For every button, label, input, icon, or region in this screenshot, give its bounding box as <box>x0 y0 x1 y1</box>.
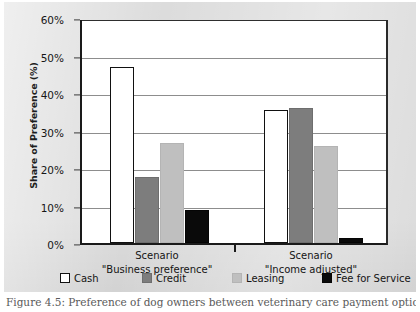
legend-label: Credit <box>156 273 186 284</box>
legend-item-fee[interactable]: Fee for Service <box>322 273 411 284</box>
y-axis-tick-label: 50% <box>20 52 64 64</box>
bar-credit-group-1 <box>135 177 159 243</box>
plot-area <box>80 20 388 245</box>
legend-label: Fee for Service <box>336 273 411 284</box>
figure-page: Share of Preference (%) 0%10%20%30%40%50… <box>0 0 420 312</box>
y-axis-title: Share of Preference (%) <box>28 51 39 201</box>
y-axis-tick-label: 10% <box>20 202 64 214</box>
y-axis-tick-label: 40% <box>20 89 64 101</box>
bar-cash-group-2 <box>264 110 288 243</box>
legend-swatch-credit-icon <box>142 273 152 283</box>
y-axis-tick-label: 20% <box>20 164 64 176</box>
legend-swatch-leasing-icon <box>232 273 242 283</box>
legend-label: Cash <box>74 273 99 284</box>
bar-credit-group-2 <box>289 108 313 243</box>
gridline <box>82 58 386 59</box>
y-axis-tick-label: 60% <box>20 14 64 26</box>
legend-item-cash[interactable]: Cash <box>60 273 99 284</box>
figure-caption: Figure 4.5: Preference of dog owners bet… <box>6 296 416 308</box>
bar-cash-group-1 <box>110 67 134 243</box>
legend-item-credit[interactable]: Credit <box>142 273 186 284</box>
x-axis-group-separator-tick <box>234 245 236 252</box>
legend-item-leasing[interactable]: Leasing <box>232 273 284 284</box>
group-label-line1: Scenario <box>135 250 178 261</box>
bar-fee-group-1 <box>185 210 209 243</box>
legend-swatch-fee-icon <box>322 273 332 283</box>
group-label-line1: Scenario <box>289 250 332 261</box>
legend-label: Leasing <box>246 273 284 284</box>
chart-figure-panel: Share of Preference (%) 0%10%20%30%40%50… <box>4 2 416 292</box>
bar-leasing-group-1 <box>160 143 184 243</box>
y-axis-tick-label: 30% <box>20 127 64 139</box>
bar-fee-group-2 <box>339 238 363 243</box>
y-axis-tick-label: 0% <box>20 239 64 251</box>
bar-leasing-group-2 <box>314 146 338 244</box>
gridline <box>82 20 386 21</box>
legend-swatch-cash-icon <box>60 273 70 283</box>
